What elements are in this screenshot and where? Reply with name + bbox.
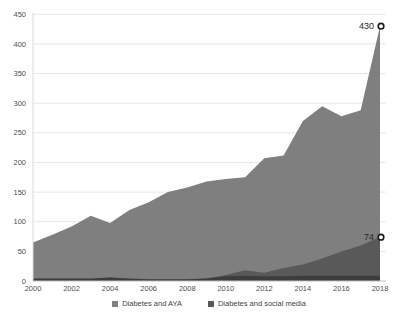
y-tick-label-50: 50 [18,247,26,256]
y-tick-label-250: 250 [13,128,26,137]
legend-label-diabetes-and-social-media: Diabetes and social media [218,299,306,308]
legend-item-diabetes-and-aya: Diabetes and AYA [112,299,182,308]
x-tick-label-2010: 2010 [217,284,234,293]
x-axis-tick-labels: 2000200220042006200820102012201420162018 [25,284,389,293]
data-label-1: 74 [364,232,374,242]
x-tick-label-2004: 2004 [102,284,119,293]
legend-swatch-diabetes-and-aya [112,301,118,307]
legend: Diabetes and AYA Diabetes and social med… [33,299,385,308]
y-tick-label-100: 100 [13,217,26,226]
x-tick-label-2008: 2008 [179,284,196,293]
y-axis-tick-labels: 050100150200250300350400450 [13,10,26,286]
data-label-0: 430 [359,21,374,31]
area-chart-figure: 050100150200250300350400450 200020022004… [0,0,400,316]
area-series [33,26,380,281]
y-tick-label-350: 350 [13,69,26,78]
x-tick-label-2012: 2012 [256,284,273,293]
x-tick-label-2006: 2006 [140,284,157,293]
legend-label-diabetes-and-aya: Diabetes and AYA [122,299,182,308]
x-tick-label-2002: 2002 [63,284,80,293]
x-tick-label-2018: 2018 [372,284,389,293]
y-tick-label-450: 450 [13,10,26,19]
legend-swatch-diabetes-and-social-media [208,301,214,307]
y-tick-label-400: 400 [13,40,26,49]
y-tick-label-200: 200 [13,158,26,167]
y-tick-label-300: 300 [13,99,26,108]
x-tick-label-2000: 2000 [25,284,42,293]
end-marker-1 [378,234,384,240]
x-tick-label-2016: 2016 [333,284,350,293]
plot-area: 050100150200250300350400450 200020022004… [0,0,400,316]
y-tick-label-150: 150 [13,188,26,197]
series-area-0 [33,26,380,281]
x-tick-label-2014: 2014 [295,284,312,293]
legend-item-diabetes-and-social-media: Diabetes and social media [208,299,306,308]
end-marker-0 [378,23,384,29]
